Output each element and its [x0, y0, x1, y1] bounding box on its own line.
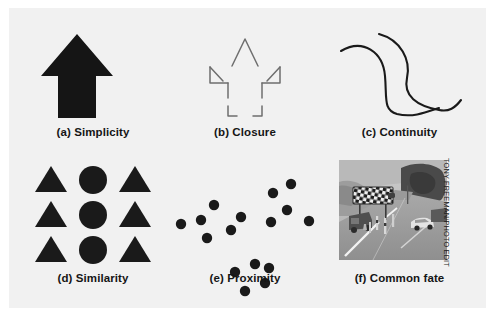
panel-simplicity: (a) Simplicity: [17, 26, 169, 156]
panel-proximity: (e) Proximity: [169, 160, 321, 300]
dot: [196, 215, 206, 225]
panel-common-fate: TONY FREEMAN/PHOTO EDIT (f) Common fate: [321, 160, 478, 300]
triangle-shape: [119, 201, 151, 227]
circle-shape: [79, 201, 107, 229]
dot: [304, 216, 314, 226]
road-construction-photo: [339, 160, 447, 260]
panel-closure: (b) Closure: [169, 26, 321, 156]
solid-up-arrow-icon: [41, 34, 113, 118]
dot: [209, 200, 219, 210]
triangle-shape: [35, 166, 67, 192]
caption-closure: (b) Closure: [169, 126, 321, 138]
common-fate-illustration: TONY FREEMAN/PHOTO EDIT: [321, 160, 478, 268]
panel-similarity: (d) Similarity: [17, 160, 169, 300]
dot: [266, 217, 276, 227]
circle-shape: [79, 236, 107, 264]
triangle-shape: [119, 236, 151, 262]
triangle-shape: [119, 166, 151, 192]
closure-illustration: [169, 26, 321, 122]
dot: [226, 225, 236, 235]
photo-frame: TONY FREEMAN/PHOTO EDIT: [339, 160, 447, 260]
dot: [202, 233, 212, 243]
dot: [286, 179, 296, 189]
triangle-shape: [35, 201, 67, 227]
panel-grid: (a) Simplicity: [9, 8, 486, 308]
photo-credit: TONY FREEMAN/PHOTO EDIT: [441, 158, 451, 262]
gapped-up-arrow-outline-icon: [210, 39, 280, 116]
dot: [236, 212, 246, 222]
simplicity-illustration: [17, 26, 169, 122]
dot: [268, 188, 278, 198]
caption-common-fate: (f) Common fate: [321, 272, 478, 284]
caption-continuity: (c) Continuity: [321, 126, 478, 138]
continuity-curve-two: [379, 34, 461, 111]
dot: [176, 219, 186, 229]
dot: [240, 286, 250, 296]
proximity-illustration: [169, 160, 321, 268]
caption-simplicity: (a) Simplicity: [17, 126, 169, 138]
triangle-shape: [35, 236, 67, 262]
dot: [282, 205, 292, 215]
circle-shape: [79, 166, 107, 194]
dot: [250, 259, 260, 269]
gestalt-principles-figure: (a) Simplicity: [9, 8, 486, 308]
similarity-illustration: [17, 160, 169, 268]
panel-continuity: (c) Continuity: [321, 26, 478, 156]
continuity-illustration: [321, 26, 478, 122]
caption-proximity: (e) Proximity: [169, 272, 321, 284]
distant-car-icon: [388, 193, 395, 198]
caption-similarity: (d) Similarity: [17, 272, 169, 284]
